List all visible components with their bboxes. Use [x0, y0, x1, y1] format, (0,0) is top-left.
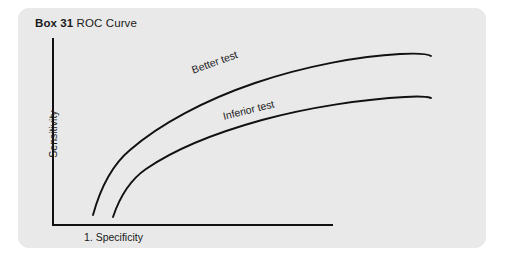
roc-curves-plot-area [0, 0, 505, 265]
curve-better-test [93, 54, 431, 215]
roc-curve-figure: Box 31 ROC Curve Sensitivity 1. Specific… [0, 0, 505, 265]
curve-inferior-test [113, 97, 431, 217]
